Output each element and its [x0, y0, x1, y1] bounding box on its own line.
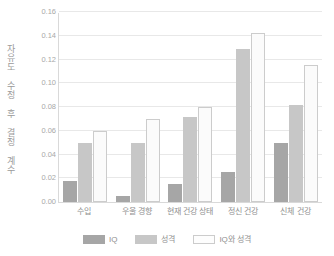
y-axis-tick-label: 0.00 [30, 198, 56, 206]
bar[interactable] [168, 184, 182, 202]
y-axis-tick-label: 0.08 [30, 103, 56, 111]
x-axis-tick-label: 정신 건강 [216, 205, 269, 221]
legend-item[interactable]: IQ [83, 235, 117, 244]
y-axis-tick-label: 0.10 [30, 79, 56, 87]
bar[interactable] [221, 172, 235, 202]
bar[interactable] [289, 105, 303, 202]
bar[interactable] [198, 107, 212, 202]
legend-item[interactable]: IQ와 성격 [193, 235, 251, 244]
bar-group [269, 13, 322, 202]
bar-group [217, 13, 270, 202]
bar-group [164, 13, 217, 202]
plot-frame [58, 13, 322, 203]
bar[interactable] [304, 65, 318, 202]
x-axis-tick-labels: 수입우울 경향현재 건강 상태정신 건강신체 건강 [58, 205, 322, 221]
legend-swatch [83, 235, 105, 244]
y-axis-tick-label: 0.14 [30, 32, 56, 40]
y-axis-tick-label: 0.02 [30, 174, 56, 182]
bar[interactable] [146, 119, 160, 202]
legend-label: IQ [109, 235, 117, 244]
legend-swatch [193, 235, 215, 244]
bar-group [112, 13, 165, 202]
bar[interactable] [131, 143, 145, 202]
x-axis-tick-label: 현재 건강 상태 [164, 205, 217, 221]
legend-label: IQ와 성격 [219, 235, 251, 244]
y-axis-tick-label: 0.06 [30, 127, 56, 135]
y-axis-tick-label: 0.12 [30, 56, 56, 64]
chart-legend: IQ성격IQ와 성격 [0, 231, 334, 247]
bar-chart: 자유도 수정 후 결정 계수 0.000.020.040.060.080.100… [0, 0, 334, 256]
y-axis-title: 자유도 수정 후 결정 계수 [2, 34, 18, 184]
bar[interactable] [183, 117, 197, 203]
bar[interactable] [93, 131, 107, 202]
plot-area [58, 13, 322, 203]
bar-groups [59, 13, 322, 202]
y-axis-tick-label: 0.16 [30, 8, 56, 16]
x-axis-tick-label: 신체 건강 [269, 205, 322, 221]
bar[interactable] [116, 196, 130, 202]
bar[interactable] [274, 143, 288, 202]
gridline [59, 11, 322, 12]
x-axis-tick-label: 우울 경향 [111, 205, 164, 221]
y-axis-tick-labels: 0.000.020.040.060.080.100.120.140.16 [30, 8, 56, 208]
bar[interactable] [63, 181, 77, 202]
bar[interactable] [78, 143, 92, 202]
bar[interactable] [236, 49, 250, 202]
y-axis-tick-label: 0.04 [30, 151, 56, 159]
x-axis-tick-label: 수입 [58, 205, 111, 221]
bar-group [59, 13, 112, 202]
legend-swatch [135, 235, 157, 244]
bar[interactable] [251, 33, 265, 202]
legend-item[interactable]: 성격 [135, 235, 175, 244]
legend-label: 성격 [161, 235, 175, 244]
